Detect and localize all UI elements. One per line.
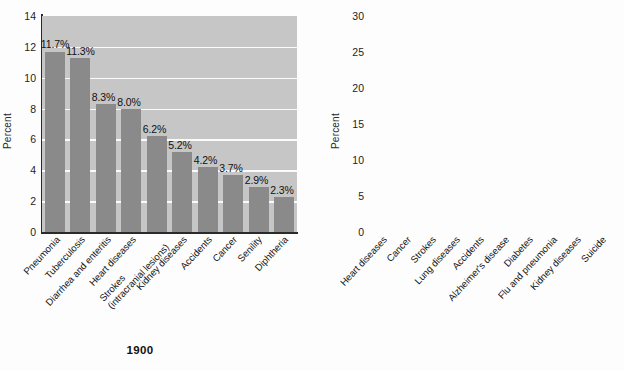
- x-category-label-line: Cancer: [384, 234, 413, 264]
- y-tick-label: 20: [338, 82, 364, 94]
- y-tick-label: 25: [338, 46, 364, 58]
- bar: [70, 58, 90, 232]
- y-tick-label: 4: [10, 164, 36, 176]
- bar-value-label: 5.2%: [168, 139, 192, 151]
- bar: [96, 104, 116, 232]
- bar: [121, 109, 141, 232]
- y-tick-label: 10: [338, 154, 364, 166]
- y-tick-label: 10: [10, 72, 36, 84]
- y-tick-label: 5: [338, 190, 364, 202]
- x-category-label: Cancer: [384, 234, 413, 264]
- leading-causes-of-death-figure: g Percent 14121086420 PneumoniaTuberculo…: [0, 0, 624, 371]
- bar: [147, 136, 167, 232]
- bar: [249, 187, 269, 232]
- y-tick-label: 14: [10, 10, 36, 22]
- y-tick-label: 6: [10, 133, 36, 145]
- y-tick-label: 12: [10, 41, 36, 53]
- bar-value-label: 11.7%: [41, 38, 70, 50]
- bar: [172, 152, 192, 232]
- chart-panel-now: Percent 302520151050 Heart diseasesCance…: [312, 0, 624, 371]
- x-category-label-line: Heart diseases: [338, 234, 389, 288]
- bar: [198, 167, 218, 232]
- x-axis-category-labels-now: Heart diseasesCancerStrokesLung diseases…: [312, 234, 624, 334]
- bar-value-label: 6.2%: [143, 123, 167, 135]
- x-category-label: Heart diseases: [338, 234, 389, 288]
- y-tick-label: 2: [10, 195, 36, 207]
- bar-value-label: 2.9%: [245, 174, 269, 186]
- caption-1900: 1900: [127, 344, 154, 356]
- bar-value-label: 2.3%: [270, 184, 294, 196]
- y-tick-label: 30: [338, 10, 364, 22]
- bar-value-label: 8.0%: [117, 96, 141, 108]
- bar-value-label: 3.7%: [219, 162, 243, 174]
- x-axis-category-labels-1900: PneumoniaTuberculosisDiarrhea and enteri…: [0, 234, 312, 334]
- x-category-label-line: Suicide: [578, 234, 607, 264]
- y-tick-label: 15: [338, 118, 364, 130]
- bar-value-label: 8.3%: [92, 91, 116, 103]
- chart-panel-1900: Percent 14121086420 PneumoniaTuberculosi…: [0, 0, 312, 371]
- bar-value-label: 11.3%: [66, 45, 95, 57]
- x-category-label: Cancer: [210, 234, 239, 264]
- bar-value-label: 4.2%: [194, 154, 218, 166]
- x-category-label-line: Cancer: [210, 234, 239, 264]
- y-tick-label: 8: [10, 103, 36, 115]
- x-category-label: Suicide: [578, 234, 607, 264]
- bar: [45, 52, 65, 233]
- bar: [274, 197, 294, 232]
- bar: [223, 175, 243, 232]
